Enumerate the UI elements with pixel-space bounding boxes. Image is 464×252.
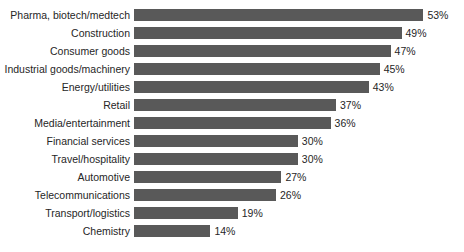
bar-value-label: 43% <box>373 78 394 96</box>
bar-track <box>134 99 336 111</box>
bar-row: Industrial goods/machinery45% <box>0 60 464 78</box>
bar-fill <box>134 99 336 111</box>
category-label: Consumer goods <box>0 42 130 60</box>
bar-value-label: 27% <box>285 168 306 186</box>
bar-fill <box>134 81 369 93</box>
bar-row: Transport/logistics19% <box>0 204 464 222</box>
category-label: Industrial goods/machinery <box>0 60 130 78</box>
category-label: Retail <box>0 96 130 114</box>
bar-value-label: 37% <box>340 96 361 114</box>
bar-fill <box>134 207 238 219</box>
category-label: Transport/logistics <box>0 204 130 222</box>
category-label: Energy/utilities <box>0 78 130 96</box>
bar-track <box>134 153 298 165</box>
category-label: Telecommunications <box>0 186 130 204</box>
bar-value-label: 53% <box>427 6 448 24</box>
category-label: Media/entertainment <box>0 114 130 132</box>
bar-value-label: 30% <box>302 150 323 168</box>
bar-track <box>134 189 276 201</box>
bar-fill <box>134 27 402 39</box>
bar-value-label: 36% <box>335 114 356 132</box>
bar-row: Energy/utilities43% <box>0 78 464 96</box>
bar-fill <box>134 63 380 75</box>
bar-track <box>134 117 331 129</box>
bar-row: Construction49% <box>0 24 464 42</box>
bar-row: Chemistry14% <box>0 222 464 240</box>
bar-value-label: 30% <box>302 132 323 150</box>
bar-value-label: 49% <box>406 24 427 42</box>
bar-track <box>134 9 423 21</box>
bar-track <box>134 81 369 93</box>
category-label: Financial services <box>0 132 130 150</box>
bar-row: Pharma, biotech/medtech53% <box>0 6 464 24</box>
bar-track <box>134 27 402 39</box>
bar-chart: Pharma, biotech/medtech53%Construction49… <box>0 0 464 252</box>
bar-fill <box>134 153 298 165</box>
bar-track <box>134 135 298 147</box>
bar-track <box>134 207 238 219</box>
bar-value-label: 45% <box>384 60 405 78</box>
bar-fill <box>134 189 276 201</box>
bar-value-label: 14% <box>214 222 235 240</box>
category-label: Construction <box>0 24 130 42</box>
bar-fill <box>134 171 281 183</box>
plot-area: Pharma, biotech/medtech53%Construction49… <box>0 0 464 252</box>
bar-row: Telecommunications26% <box>0 186 464 204</box>
category-label: Automotive <box>0 168 130 186</box>
bar-track <box>134 225 210 237</box>
bar-fill <box>134 225 210 237</box>
bar-row: Travel/hospitality30% <box>0 150 464 168</box>
bar-row: Consumer goods47% <box>0 42 464 60</box>
bar-track <box>134 45 391 57</box>
bar-fill <box>134 45 391 57</box>
bar-row: Media/entertainment36% <box>0 114 464 132</box>
bar-value-label: 19% <box>242 204 263 222</box>
bar-track <box>134 171 281 183</box>
bar-row: Retail37% <box>0 96 464 114</box>
bar-value-label: 26% <box>280 186 301 204</box>
bar-row: Automotive27% <box>0 168 464 186</box>
bar-fill <box>134 9 423 21</box>
bar-value-label: 47% <box>395 42 416 60</box>
bar-fill <box>134 117 331 129</box>
bar-fill <box>134 135 298 147</box>
bar-track <box>134 63 380 75</box>
category-label: Chemistry <box>0 222 130 240</box>
bar-row: Financial services30% <box>0 132 464 150</box>
category-label: Travel/hospitality <box>0 150 130 168</box>
category-label: Pharma, biotech/medtech <box>0 6 130 24</box>
